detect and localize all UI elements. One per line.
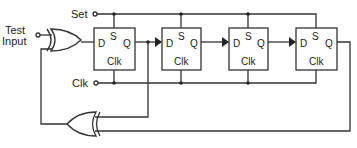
feedback-to-input-xor-wire: [41, 49, 67, 124]
set-bus: [97, 14, 316, 28]
clk-taps: [114, 70, 248, 83]
svg-text:S: S: [312, 31, 319, 42]
arrow-icon: [222, 37, 229, 47]
svg-text:S: S: [245, 31, 252, 42]
flipflop-1: D S Q Clk: [94, 28, 135, 70]
test-input-terminal: [36, 33, 40, 37]
set-label: Set: [71, 8, 88, 20]
junction-dot: [112, 81, 116, 85]
flipflop-2: D S Q Clk: [162, 28, 201, 70]
svg-text:Q: Q: [325, 38, 333, 49]
svg-text:D: D: [300, 38, 307, 49]
svg-text:S: S: [178, 31, 185, 42]
test-input-label-line2: Input: [2, 35, 26, 47]
svg-text:Q: Q: [190, 38, 198, 49]
clk-terminal: [94, 81, 98, 85]
svg-text:S: S: [110, 31, 117, 42]
xor-gate-feedback: [67, 112, 100, 136]
svg-text:D: D: [166, 38, 173, 49]
svg-text:Clk: Clk: [241, 56, 256, 67]
junction-dot: [112, 12, 116, 16]
junction-dot: [246, 81, 250, 85]
junction-dot: [179, 12, 183, 16]
svg-text:Clk: Clk: [174, 56, 189, 67]
flipflop-3: D S Q Clk: [229, 28, 268, 70]
svg-text:Q: Q: [123, 38, 131, 49]
svg-text:D: D: [233, 38, 240, 49]
set-terminal: [93, 12, 97, 16]
clk-input-label: Clk: [72, 77, 88, 89]
junction-dot: [246, 12, 250, 16]
svg-text:D: D: [98, 38, 105, 49]
arrow-icon: [155, 37, 162, 47]
circuit-diagram: Test Input Set Clk D S Q Clk D S Q Clk D…: [0, 0, 357, 148]
clk-bus: [98, 70, 316, 83]
svg-text:Q: Q: [257, 38, 265, 49]
xor-gate-input: [47, 29, 81, 51]
svg-text:Clk: Clk: [309, 56, 324, 67]
flipflop-4: D S Q Clk: [296, 28, 337, 70]
arrow-icon: [289, 37, 296, 47]
junction-dot: [179, 81, 183, 85]
set-taps: [114, 14, 248, 28]
svg-text:Clk: Clk: [107, 56, 122, 67]
